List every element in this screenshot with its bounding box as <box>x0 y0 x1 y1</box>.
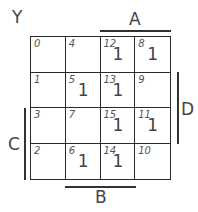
cell-index: 7 <box>69 110 75 120</box>
cell-index: 0 <box>34 39 40 49</box>
cell-value: 1 <box>78 82 89 99</box>
map-cell: 9 <box>135 73 170 109</box>
map-cell: 14 1 <box>101 144 136 180</box>
cell-index: 10 <box>138 146 151 156</box>
map-cell: 4 <box>66 37 101 73</box>
variable-a-label: A <box>129 11 141 28</box>
map-cell: 0 <box>31 37 66 73</box>
cell-value: 1 <box>113 46 124 63</box>
cell-value: 1 <box>78 153 89 170</box>
variable-c-bar <box>24 108 26 180</box>
map-cell: 10 <box>135 144 170 180</box>
cell-index: 1 <box>34 75 40 85</box>
variable-b-label: B <box>95 189 107 206</box>
cell-value: 1 <box>147 117 158 134</box>
cell-value: 1 <box>147 46 158 63</box>
map-cell: 2 <box>31 144 66 180</box>
map-cell: 7 <box>66 108 101 144</box>
map-cell: 3 <box>31 108 66 144</box>
variable-a-bar <box>100 30 171 32</box>
map-cell: 8 1 <box>135 37 170 73</box>
cell-value: 1 <box>113 117 124 134</box>
cell-index: 9 <box>138 75 144 85</box>
map-cell: 1 <box>31 73 66 109</box>
cell-value: 1 <box>113 82 124 99</box>
cell-index: 3 <box>34 110 40 120</box>
cell-index: 4 <box>69 39 75 49</box>
cell-index: 2 <box>34 146 40 156</box>
variable-d-bar <box>177 72 179 144</box>
map-cell: 6 1 <box>66 144 101 180</box>
cell-value: 1 <box>113 153 124 170</box>
map-cell: 15 1 <box>101 108 136 144</box>
output-label: Y <box>12 9 22 26</box>
map-cell: 12 1 <box>101 37 136 73</box>
variable-d-label: D <box>181 101 194 118</box>
map-cell: 13 1 <box>101 73 136 109</box>
map-cell: 11 1 <box>135 108 170 144</box>
cell-index: 8 <box>138 39 144 49</box>
variable-c-label: C <box>8 136 20 153</box>
cell-index: 5 <box>69 75 75 85</box>
map-grid: 0 4 12 1 8 1 1 5 1 13 1 9 <box>30 36 171 180</box>
cell-index: 6 <box>69 146 75 156</box>
map-cell: 5 1 <box>66 73 101 109</box>
